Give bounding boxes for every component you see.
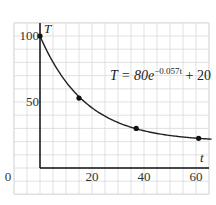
y-tick-label: 50: [26, 94, 39, 109]
equation-annotation: T = 80e−0.057t + 20: [110, 66, 211, 83]
data-point: [76, 95, 81, 100]
x-tick-label: 60: [190, 169, 203, 184]
x-axis-label: t: [200, 150, 204, 165]
chart: 020406050100 T t T = 80e−0.057t + 20: [0, 0, 216, 205]
x-tick-label: 20: [86, 169, 99, 184]
data-point: [134, 126, 139, 131]
data-point: [196, 136, 201, 141]
tick-labels: 020406050100: [5, 28, 203, 184]
x-tick-label: 0: [5, 169, 12, 184]
equation-lhs: T = 80e: [110, 68, 154, 83]
equation-rhs: + 20: [182, 68, 211, 83]
y-tick-label: 100: [20, 28, 40, 43]
equation-exponent: −0.057t: [154, 66, 182, 76]
y-axis-label: T: [44, 21, 52, 36]
axes: [40, 23, 209, 168]
x-tick-label: 40: [138, 169, 151, 184]
